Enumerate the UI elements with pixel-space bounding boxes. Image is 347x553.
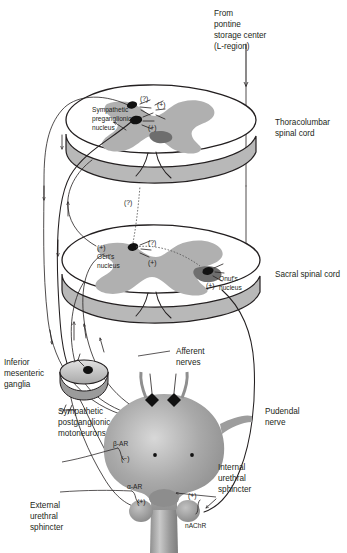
external-urethral-sphincter-label: External urethral sphincter (30, 501, 63, 532)
external-sphincter-line-1: External (30, 501, 60, 510)
onufs-label-line-1: Onuf's (219, 275, 239, 282)
marker-tl-unknown: (?) (140, 95, 148, 103)
inferior-mesenteric-ganglia-label: Inferior mesenteric ganglia (4, 358, 44, 389)
marker-tl-plus-lower: (+) (148, 124, 157, 132)
beta-ar-label: β-AR (113, 440, 128, 448)
sympathetic-postganglionic-motoneurons-label: Sympathetic postganglionic motoneurons (58, 405, 110, 438)
inferior-mesenteric-ganglion: Inferior mesenteric ganglia (4, 354, 108, 400)
pontine-label-line-2: pontine (214, 20, 241, 29)
urinary-control-diagram: Sympathetic preganglionic nucleus (?) (+… (0, 0, 347, 553)
img-label-line-2: mesenteric (4, 369, 44, 378)
internal-sphincter-line-1: Internal (218, 463, 245, 472)
marker-sac-plus-mid: (+) (148, 259, 157, 267)
spg-label-line-1: Sympathetic (58, 407, 103, 416)
ureter-right (182, 372, 187, 398)
alpha-ar-label: α-AR (127, 483, 142, 490)
marker-bladder-beta-minus: (−) (121, 455, 130, 463)
gerts-label-line-2: nucleus (97, 262, 120, 269)
afferent-label-line-2: nerves (176, 358, 201, 367)
spg-label-line-3: motoneurons (58, 429, 106, 438)
internal-sphincter-line-2: urethral (218, 474, 246, 483)
external-urethral-sphincter-right (176, 500, 200, 522)
pontine-label-line-3: storage center (214, 31, 267, 40)
pontine-storage-center-label: From pontine storage center (L-region) (214, 9, 267, 51)
marker-urethra-nachr-plus: (+) (188, 492, 197, 500)
external-sphincter-line-2: urethral (30, 512, 58, 521)
img-label-line-3: ganglia (4, 380, 31, 389)
detrusor-receptor-dot-left (153, 453, 157, 457)
bladder-right-horn (220, 415, 252, 434)
marker-urethra-alpha-plus: (+) (137, 498, 146, 506)
marker-sac-onuf-plus: (+) (206, 282, 215, 290)
nachr-label: nAChR (185, 522, 206, 529)
pontine-label-line-1: From (214, 9, 233, 18)
alpha-ar-label-group: α-AR (+) (60, 483, 146, 506)
img-ganglion-cell-soma (83, 366, 93, 374)
tl-cord-label-line-1: Thoracolumbar (275, 118, 330, 127)
afferent-leader-line (138, 351, 170, 356)
bladder-ganglion-left-axon (150, 374, 152, 393)
internal-urethral-sphincter-shape (149, 489, 179, 507)
external-sphincter-line-3: sphincter (30, 523, 63, 532)
sacral-cord-label: Sacral spinal cord (275, 270, 341, 279)
marker-sac-unknown: (?) (148, 239, 156, 247)
thoracolumbar-spinal-cord: Sympathetic preganglionic nucleus (?) (+… (66, 85, 330, 183)
spg-label-line-2: postganglionic (58, 418, 110, 427)
spn-line-2: preganglionic (92, 115, 132, 123)
afferent-label-line-1: Afferent (176, 347, 205, 356)
detrusor-receptor-dot-right (190, 453, 194, 457)
thoracolumbar-cord-label: Thoracolumbar spinal cord (275, 118, 330, 138)
spn-line-1: Sympathetic (92, 106, 129, 114)
pudendal-nerve-label: Pudendal nerve (265, 407, 300, 427)
sacral-spinal-cord: (+) Gert's nucleus (+) Onuf's nucleus (?… (62, 225, 341, 323)
pudendal-label-line-2: nerve (265, 418, 286, 427)
pudendal-label-line-1: Pudendal (265, 407, 300, 416)
spn-line-3: nucleus (92, 124, 115, 131)
internal-sphincter-line-3: sphincter (218, 485, 251, 494)
marker-tl-plus-upper: (+) (157, 101, 166, 109)
img-label-line-1: Inferior (4, 358, 30, 367)
ureter-left (141, 372, 146, 398)
bladder-ganglion-right-axon (174, 374, 176, 393)
afferent-nerves-label: Afferent nerves (138, 347, 205, 367)
marker-interneuron-query: (?) (124, 199, 132, 207)
marker-sac-gert-plus: (+) (97, 244, 106, 252)
alpha-ar-leader (60, 490, 132, 492)
pontine-label-line-4: (L-region) (214, 42, 250, 51)
tl-cord-label-line-2: spinal cord (275, 129, 315, 138)
